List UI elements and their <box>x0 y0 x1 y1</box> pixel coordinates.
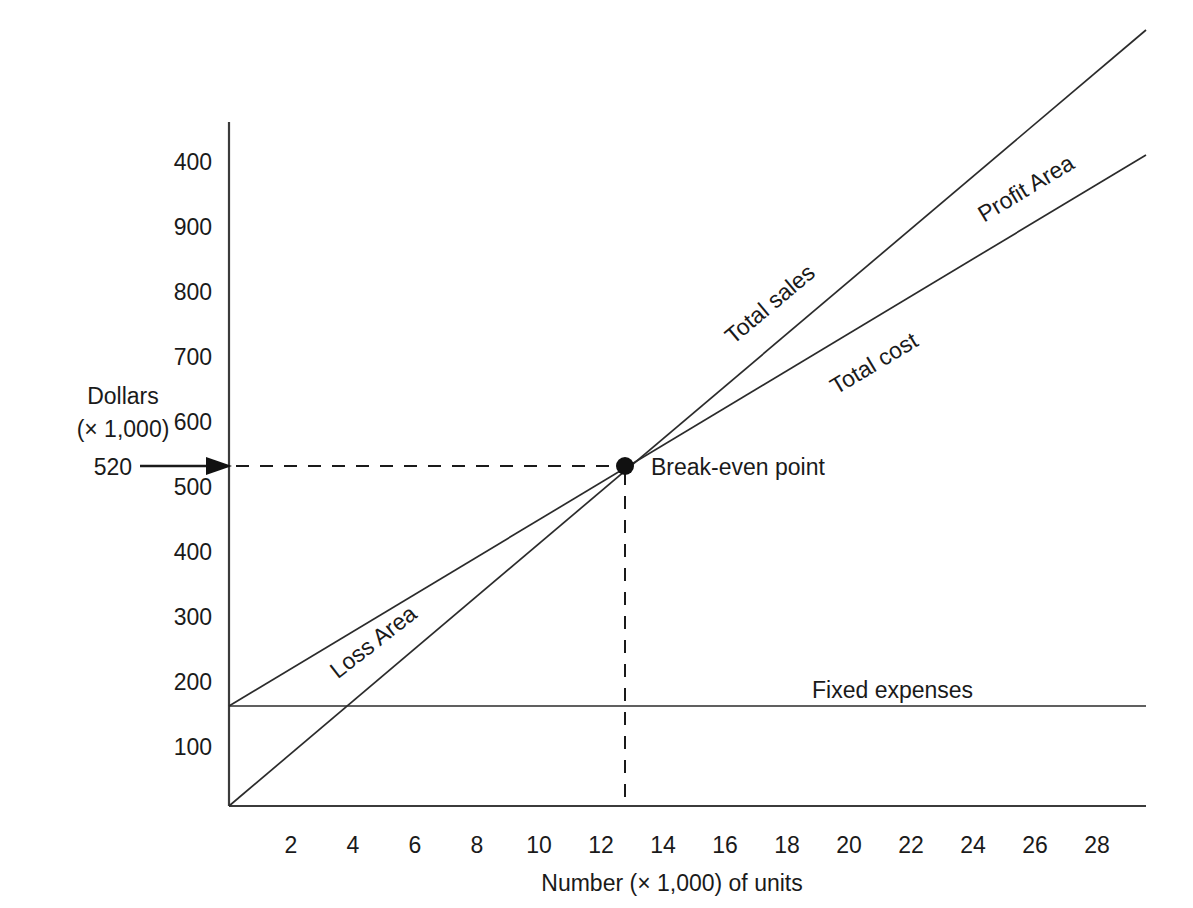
break-even-value-label: 520 <box>94 454 132 480</box>
x-tick-label-2: 2 <box>285 832 298 858</box>
y-tick-label-100: 100 <box>174 734 212 760</box>
profit-area-label: Profit Area <box>973 149 1079 227</box>
break-even-point-label: Break-even point <box>651 454 825 480</box>
y-tick-label-200: 200 <box>174 669 212 695</box>
loss-area-label: Loss Area <box>325 600 422 684</box>
total-sales-line <box>229 30 1146 806</box>
break-even-marker-dot <box>616 457 634 475</box>
x-tick-label-10: 10 <box>526 832 552 858</box>
x-tick-label-28: 28 <box>1084 832 1110 858</box>
x-tick-label-16: 16 <box>712 832 738 858</box>
x-tick-label-4: 4 <box>347 832 360 858</box>
total-cost-label: Total cost <box>826 327 923 400</box>
chart-canvas: 400 900 800 700 600 500 400 300 200 100 … <box>0 0 1193 908</box>
y-tick-label-300: 300 <box>174 604 212 630</box>
y-tick-label-900: 900 <box>174 214 212 240</box>
x-tick-label-24: 24 <box>960 832 986 858</box>
fixed-expenses-label: Fixed expenses <box>812 677 973 703</box>
y-tick-label-1000: 400 <box>174 149 212 175</box>
x-tick-label-22: 22 <box>898 832 924 858</box>
total-sales-label: Total sales <box>720 259 820 349</box>
x-tick-label-8: 8 <box>471 832 484 858</box>
x-axis-title: Number (× 1,000) of units <box>541 870 802 896</box>
y-tick-label-600: 600 <box>174 409 212 435</box>
y-tick-label-400: 400 <box>174 539 212 565</box>
x-tick-label-26: 26 <box>1022 832 1048 858</box>
x-tick-label-6: 6 <box>409 832 422 858</box>
x-tick-label-14: 14 <box>650 832 676 858</box>
x-tick-label-18: 18 <box>774 832 800 858</box>
y-tick-label-500: 500 <box>174 474 212 500</box>
y-axis-title-line1: Dollars <box>87 383 159 409</box>
y-tick-label-800: 800 <box>174 279 212 305</box>
y-axis-title-line2: (× 1,000) <box>77 416 170 442</box>
x-tick-label-20: 20 <box>836 832 862 858</box>
break-even-chart: 400 900 800 700 600 500 400 300 200 100 … <box>0 0 1193 908</box>
y-tick-label-700: 700 <box>174 344 212 370</box>
total-cost-line <box>229 155 1146 706</box>
x-tick-label-12: 12 <box>588 832 614 858</box>
